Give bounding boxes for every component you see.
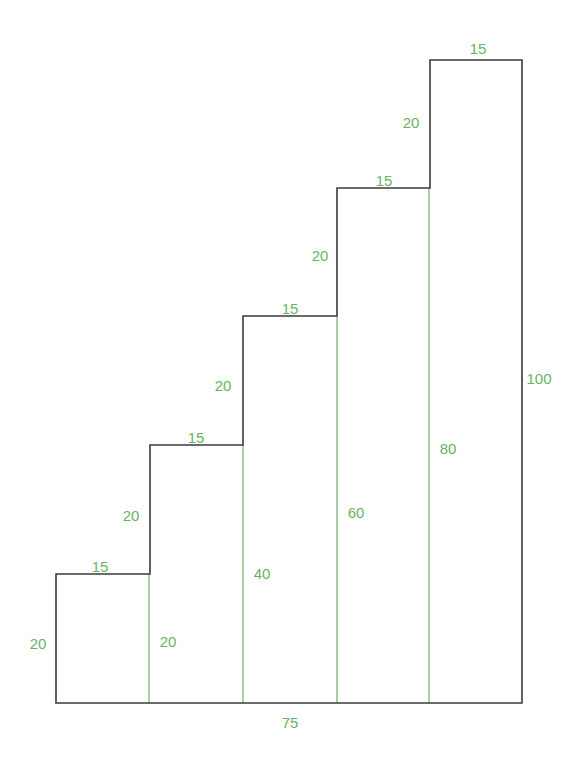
riser-dimension-label: 20 (312, 248, 329, 263)
height-dimension-label: 20 (30, 636, 47, 651)
diagram-canvas: 151515151520202020202040608010075 (0, 0, 586, 761)
height-dimension-label: 100 (526, 371, 551, 386)
riser-dimension-label: 20 (215, 378, 232, 393)
height-dimension-label: 40 (254, 566, 271, 581)
tread-dimension-label: 15 (470, 41, 487, 56)
total-run-label: 75 (282, 715, 299, 730)
tread-dimension-label: 15 (92, 559, 109, 574)
height-dimension-label: 60 (348, 505, 365, 520)
height-dimension-label: 80 (440, 441, 457, 456)
tread-dimension-label: 15 (188, 430, 205, 445)
riser-dimension-label: 20 (123, 508, 140, 523)
staircase-outline (56, 60, 522, 703)
riser-dimension-label: 20 (403, 115, 420, 130)
height-dimension-label: 20 (160, 634, 177, 649)
tread-dimension-label: 15 (282, 301, 299, 316)
staircase-figure (0, 0, 586, 761)
tread-dimension-label: 15 (376, 173, 393, 188)
